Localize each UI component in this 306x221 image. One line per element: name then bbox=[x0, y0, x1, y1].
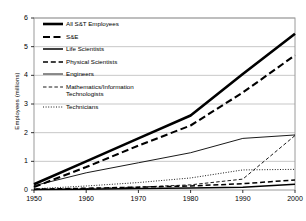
legend-line-swatch bbox=[43, 57, 63, 66]
legend-item: Mathematics/Information Technologists bbox=[43, 82, 173, 101]
legend-item: All S&T Employees bbox=[43, 19, 173, 30]
legend-line-swatch bbox=[43, 19, 63, 28]
legend-item: S&E bbox=[43, 32, 173, 43]
legend-line-swatch bbox=[43, 44, 63, 53]
legend-line-swatch bbox=[43, 82, 63, 91]
legend-line-swatch bbox=[43, 69, 63, 78]
legend-item-label: S&E bbox=[66, 32, 78, 40]
legend-item-label: All S&T Employees bbox=[66, 19, 119, 27]
legend-item: Technicians bbox=[43, 102, 173, 113]
chart-container: Employees (millions) 6543210 19501960197… bbox=[0, 0, 306, 221]
legend-item-label: Life Scientists bbox=[66, 44, 104, 52]
legend-item: Physical Scientists bbox=[43, 57, 173, 68]
legend-item-label: Physical Scientists bbox=[66, 57, 117, 65]
series-line bbox=[34, 136, 295, 190]
legend-item-label: Technicians bbox=[66, 102, 98, 110]
legend-item-label: Engineers bbox=[66, 69, 94, 77]
chart-legend: All S&T EmployeesS&ELife ScientistsPhysi… bbox=[43, 19, 173, 115]
legend-item-label: Mathematics/Information Technologists bbox=[66, 82, 134, 98]
legend-line-swatch bbox=[43, 102, 63, 111]
legend-line-swatch bbox=[43, 32, 63, 41]
series-line bbox=[34, 135, 295, 186]
legend-item: Engineers bbox=[43, 69, 173, 80]
legend-item: Life Scientists bbox=[43, 44, 173, 55]
